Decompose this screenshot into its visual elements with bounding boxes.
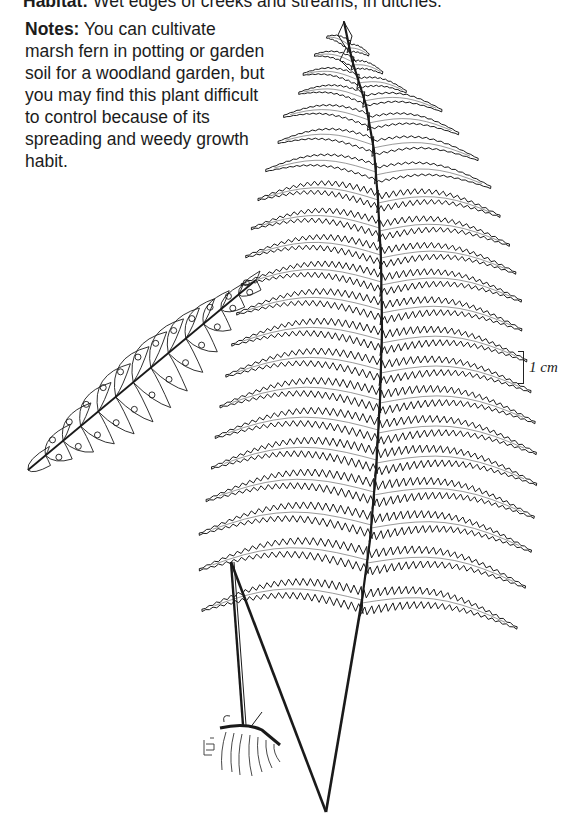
fern-illustration — [0, 0, 575, 828]
rhizome-roots — [220, 712, 280, 776]
scale-label: 1 cm — [529, 359, 558, 376]
fern-stipe — [231, 562, 362, 812]
fern-frond — [199, 22, 537, 629]
artist-mark — [204, 738, 214, 755]
scale-bracket — [518, 351, 524, 384]
scale-bar: 1 cm — [518, 351, 558, 384]
fertile-pinna-detail — [28, 271, 261, 472]
